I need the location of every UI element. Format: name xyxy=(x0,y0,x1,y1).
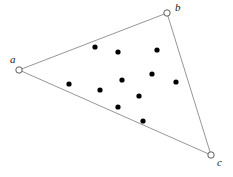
interior-point-10 xyxy=(115,104,120,109)
edge-bc xyxy=(167,13,211,155)
vertex-marker-a xyxy=(16,67,22,73)
interior-point-1 xyxy=(92,44,97,49)
interior-point-3 xyxy=(154,47,159,52)
triangle-diagram-canvas xyxy=(0,0,233,177)
triangle-edges-group xyxy=(19,13,211,155)
vertex-marker-c xyxy=(208,152,214,158)
triangle-vertices-group xyxy=(16,10,214,158)
interior-points-group xyxy=(66,44,178,123)
edge-ab xyxy=(19,13,167,70)
vertex-marker-b xyxy=(164,10,170,16)
vertex-label-a: a xyxy=(10,54,16,65)
interior-point-6 xyxy=(173,79,178,84)
interior-point-8 xyxy=(97,87,102,92)
interior-point-11 xyxy=(140,118,145,123)
interior-point-5 xyxy=(149,71,154,76)
interior-point-4 xyxy=(119,77,124,82)
triangle-figure: a b c xyxy=(0,0,233,177)
edge-ca xyxy=(19,70,211,155)
interior-point-2 xyxy=(115,49,120,54)
vertex-label-c: c xyxy=(217,157,222,168)
vertex-label-b: b xyxy=(175,2,181,13)
interior-point-7 xyxy=(66,81,71,86)
interior-point-9 xyxy=(136,93,141,98)
